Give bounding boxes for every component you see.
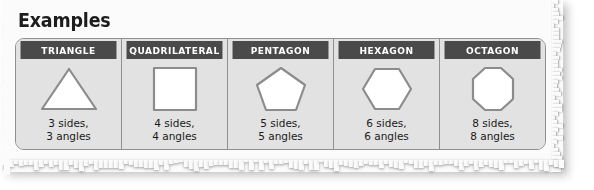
column-caption: 5 sides, 5 angles <box>228 117 333 149</box>
caption-sides: 6 sides, <box>334 117 439 130</box>
caption-angles: 8 angles <box>440 130 545 143</box>
caption-sides: 8 sides, <box>440 117 545 130</box>
octagon-icon <box>440 59 545 117</box>
pentagon-icon <box>228 59 333 117</box>
hexagon-icon <box>334 59 439 117</box>
column-caption: 6 sides, 6 angles <box>334 117 439 149</box>
examples-table: TRIANGLE 3 sides, 3 angles QUADRILATERAL… <box>15 38 546 150</box>
caption-angles: 6 angles <box>334 130 439 143</box>
paper-edge-left <box>0 0 10 172</box>
column-caption: 4 sides, 4 angles <box>122 117 227 149</box>
table-column-triangle: TRIANGLE 3 sides, 3 angles <box>16 39 122 149</box>
column-header: OCTAGON <box>445 41 541 59</box>
column-caption: 8 sides, 8 angles <box>440 117 545 149</box>
caption-sides: 3 sides, <box>16 117 121 130</box>
square-icon <box>122 59 227 117</box>
caption-sides: 4 sides, <box>122 117 227 130</box>
caption-angles: 3 angles <box>16 130 121 143</box>
caption-angles: 4 angles <box>122 130 227 143</box>
column-header: QUADRILATERAL <box>127 41 223 59</box>
triangle-icon <box>16 59 121 117</box>
column-header: PENTAGON <box>233 41 329 59</box>
table-column-octagon: OCTAGON 8 sides, 8 angles <box>440 39 545 149</box>
page-root: Examples TRIANGLE 3 sides, 3 angles QUAD… <box>0 0 594 190</box>
caption-sides: 5 sides, <box>228 117 333 130</box>
caption-angles: 5 angles <box>228 130 333 143</box>
column-header: TRIANGLE <box>21 41 117 59</box>
table-column-hexagon: HEXAGON 6 sides, 6 angles <box>334 39 440 149</box>
column-header: HEXAGON <box>339 41 435 59</box>
torn-edge-bottom <box>4 160 564 178</box>
table-column-quadrilateral: QUADRILATERAL 4 sides, 4 angles <box>122 39 228 149</box>
column-caption: 3 sides, 3 angles <box>16 117 121 149</box>
page-title: Examples <box>18 9 111 31</box>
torn-edge-right <box>552 0 568 172</box>
table-column-pentagon: PENTAGON 5 sides, 5 angles <box>228 39 334 149</box>
